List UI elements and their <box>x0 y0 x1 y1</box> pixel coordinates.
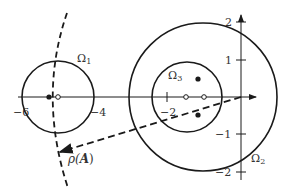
y-label-1: 1 <box>225 54 232 67</box>
filled-point <box>46 94 51 99</box>
spectral-radius-arrow <box>60 97 241 152</box>
real-axis <box>18 92 256 102</box>
omega2-label: Ω2 <box>251 152 265 166</box>
complex-plane-diagram: −6 −4 −2 2 1 −1 −2 Ω1 Ω2 Ω3 ρ(A) <box>0 0 291 190</box>
open-point <box>56 95 61 100</box>
y-label-minus1: −1 <box>215 128 231 141</box>
x-label-minus6: −6 <box>13 106 29 119</box>
omega1-label: Ω1 <box>77 52 91 66</box>
omega3-label: Ω3 <box>168 69 182 83</box>
filled-point <box>195 112 200 117</box>
spectral-radius-arc <box>53 13 68 188</box>
open-point <box>184 95 189 100</box>
spectral-radius-label: ρ(A) <box>67 152 94 166</box>
open-point <box>202 95 207 100</box>
filled-point <box>195 76 200 81</box>
